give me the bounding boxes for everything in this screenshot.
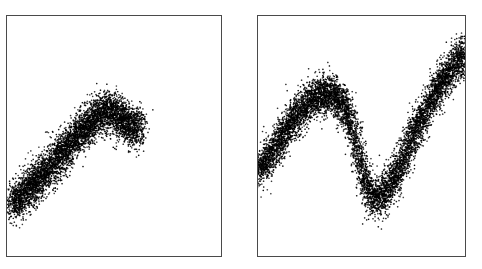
right-panel bbox=[257, 15, 466, 257]
left-panel-scatter bbox=[7, 16, 221, 256]
right-panel-scatter bbox=[258, 16, 465, 256]
scatter-figure bbox=[0, 0, 482, 269]
left-panel bbox=[6, 15, 222, 257]
